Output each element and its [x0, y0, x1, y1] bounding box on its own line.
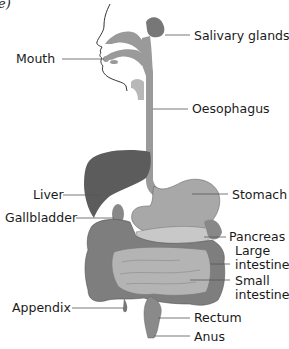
- label-anus: Anus: [194, 330, 225, 343]
- face-profile: [97, 4, 127, 91]
- label-rectum: Rectum: [194, 311, 242, 324]
- salivary-glands: [146, 17, 164, 37]
- label-liver: Liver: [33, 188, 64, 201]
- small-intestine: [112, 247, 211, 295]
- label-stomach: Stomach: [232, 188, 287, 201]
- appendix: [123, 298, 127, 312]
- label-gallbladder: Gallbladder: [5, 211, 77, 224]
- digestive-system-diagram: e): [0, 0, 289, 349]
- label-salivary-glands: Salivary glands: [194, 29, 289, 42]
- label-appendix: Appendix: [12, 301, 71, 314]
- rectum: [144, 296, 161, 338]
- label-oesophagus: Oesophagus: [192, 102, 270, 115]
- larynx: [131, 79, 144, 100]
- label-small-intestine-line1: Small: [235, 274, 270, 287]
- label-large-intestine-line1: Large: [235, 244, 270, 257]
- label-mouth: Mouth: [16, 52, 55, 65]
- label-pancreas: Pancreas: [229, 230, 285, 243]
- label-large-intestine-line2: intestine: [235, 258, 289, 271]
- oesophagus: [146, 90, 166, 198]
- label-small-intestine-line2: intestine: [235, 288, 289, 301]
